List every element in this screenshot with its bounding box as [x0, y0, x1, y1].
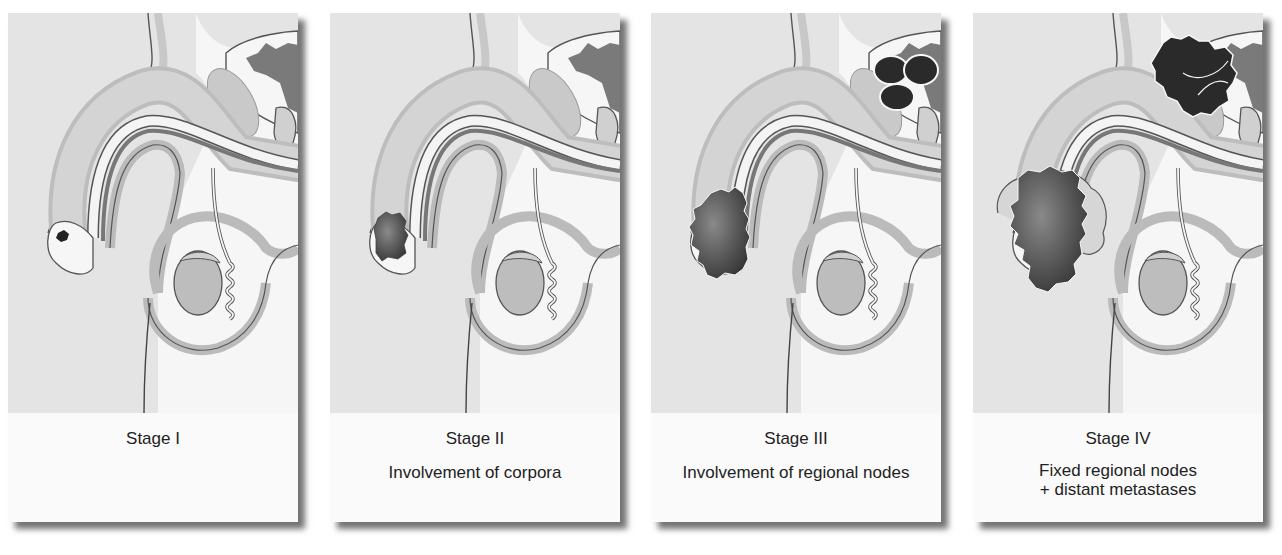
stage-4-panel: Stage IV Fixed regional nodes + distant … [973, 13, 1263, 522]
stage-3-illustration [651, 13, 941, 413]
stage-4-illustration [973, 13, 1263, 413]
stage-3-panel: Stage III Involvement of regional nodes [651, 13, 941, 522]
stage-2-panel: Stage II Involvement of corpora [330, 13, 620, 522]
stage-2-description: Involvement of corpora [330, 463, 620, 483]
stage-4-tumor [1010, 166, 1088, 292]
stage-1-illustration [8, 13, 298, 413]
stage-2-tumor [374, 212, 408, 261]
stage-4-label: Stage IV [973, 429, 1263, 449]
stage-1-panel: Stage I [8, 13, 298, 522]
stage-4-description: Fixed regional nodes + distant metastase… [973, 461, 1263, 499]
stage-2-illustration [330, 13, 620, 413]
stage-1-label: Stage I [8, 429, 298, 449]
stage-3-description: Involvement of regional nodes [651, 463, 941, 483]
stage-2-label: Stage II [330, 429, 620, 449]
stage-3-label: Stage III [651, 429, 941, 449]
